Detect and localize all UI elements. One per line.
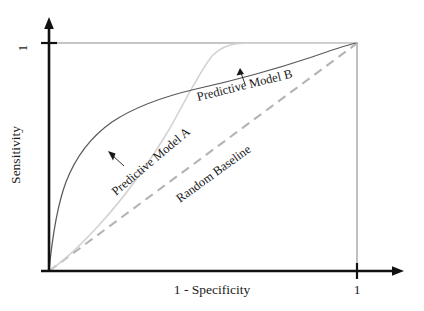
x-axis-label: 1 - Specificity [174, 282, 251, 297]
y-axis-label: Sensitivity [8, 126, 23, 184]
annotation-model-b-arrow-icon [237, 68, 245, 76]
series-predictive-model-b [49, 43, 356, 271]
roc-curve-figure: 1 1 Sensitivity 1 - Specificity Predicti… [0, 0, 424, 311]
roc-plot-svg: 1 1 Sensitivity 1 - Specificity Predicti… [0, 0, 424, 311]
y-axis-tick-label: 1 [15, 45, 30, 52]
series-random-baseline [49, 44, 356, 271]
annotation-random-baseline-label: Random Baseline [174, 142, 254, 206]
y-axis-arrow-icon [44, 17, 54, 29]
annotation-model-a-label: Predictive Model A [109, 125, 193, 199]
x-axis-arrow-icon [392, 266, 404, 276]
x-axis-tick-label: 1 [354, 282, 361, 297]
annotation-model-a-arrow-icon [108, 151, 116, 161]
series-predictive-model-a [49, 43, 356, 271]
